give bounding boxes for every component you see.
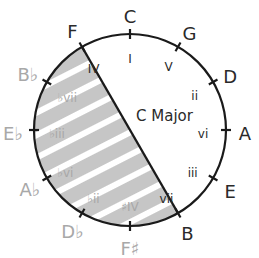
degree-label: IV <box>88 62 101 76</box>
note-label: A♭ <box>19 179 40 200</box>
note-label: D <box>223 66 237 87</box>
degree-label: ♭vii <box>58 91 77 105</box>
note-label: B <box>181 223 193 244</box>
degree-label: ♭ii <box>87 192 99 206</box>
circle-of-fifths-diagram: CGDAEBF♯D♭A♭E♭B♭F IViiviiiivii♯IV♭ii♭vi♭… <box>0 0 259 258</box>
degree-label: I <box>128 52 132 66</box>
note-label: E <box>224 181 235 202</box>
degree-label: vii <box>160 192 174 206</box>
degree-label: ♭vi <box>57 166 73 180</box>
key-title: C Major <box>136 107 194 125</box>
degree-label: vi <box>198 127 208 141</box>
note-label: F♯ <box>120 238 139 258</box>
degree-label: V <box>164 60 173 74</box>
note-label: D♭ <box>61 221 83 242</box>
note-label: F <box>67 21 77 42</box>
degree-label: iii <box>188 166 198 180</box>
note-label: C <box>124 6 137 27</box>
note-label: G <box>183 23 197 44</box>
degree-label: ♯IV <box>121 200 139 214</box>
note-label: B♭ <box>17 64 38 85</box>
note-label: E♭ <box>3 123 23 144</box>
degree-label: ii <box>191 89 198 103</box>
note-label: A <box>239 123 252 144</box>
degree-label: ♭iii <box>49 127 65 141</box>
